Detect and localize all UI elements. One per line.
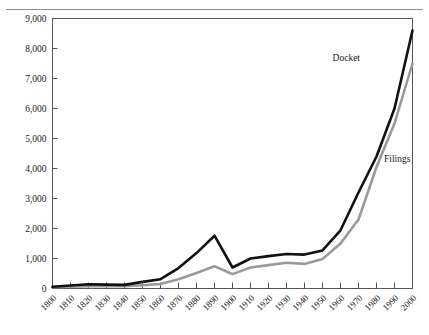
y-tick-label-3000: 3,000 — [25, 194, 47, 204]
y-axis-labels: 9,0008,0007,0006,0005,0004,0003,0002,000… — [25, 14, 47, 294]
x-tick-label-1830: 1830 — [93, 292, 113, 312]
x-tick-label-1940: 1940 — [291, 292, 311, 312]
x-tick-label-1870: 1870 — [165, 292, 185, 312]
x-tick-label-1820: 1820 — [75, 292, 95, 312]
x-tick-label-1980: 1980 — [363, 292, 383, 312]
x-tick-label-1950: 1950 — [309, 292, 329, 312]
chart-figure: 9,0008,0007,0006,0005,0004,0003,0002,000… — [0, 0, 429, 335]
x-tick-label-1900: 1900 — [219, 292, 239, 312]
series-line-docket — [53, 31, 413, 287]
y-tick-label-7000: 7,000 — [25, 74, 47, 84]
y-tick-label-1000: 1,000 — [25, 254, 47, 264]
x-tick-label-1970: 1970 — [345, 292, 365, 312]
x-tick-label-1810: 1810 — [57, 292, 77, 312]
x-tick-label-2000: 2000 — [399, 292, 419, 312]
x-tick-label-1890: 1890 — [201, 292, 221, 312]
y-tick-label-5000: 5,000 — [25, 134, 47, 144]
data-series-lines — [53, 31, 413, 288]
x-tick-label-1920: 1920 — [255, 292, 275, 312]
y-tick-label-6000: 6,000 — [25, 104, 47, 114]
y-tick-label-8000: 8,000 — [25, 44, 47, 54]
x-tick-label-1930: 1930 — [273, 292, 293, 312]
x-tick-label-1960: 1960 — [327, 292, 347, 312]
x-tick-label-1990: 1990 — [381, 292, 401, 312]
x-tick-label-1910: 1910 — [237, 292, 257, 312]
x-tick-label-1800: 1800 — [39, 292, 59, 312]
x-tick-label-1880: 1880 — [183, 292, 203, 312]
series-label-filings: Filings — [384, 154, 411, 164]
y-tick-label-2000: 2,000 — [25, 224, 47, 234]
y-tick-label-9000: 9,000 — [25, 14, 47, 24]
series-label-docket: Docket — [333, 53, 361, 63]
x-tick-label-1860: 1860 — [147, 292, 167, 312]
series-line-filings — [53, 64, 413, 288]
y-tick-label-0: 0 — [42, 284, 47, 294]
x-tick-label-1850: 1850 — [129, 292, 149, 312]
x-tick-label-1840: 1840 — [111, 292, 131, 312]
x-axis-labels: 1800181018201830184018501860187018801890… — [39, 292, 419, 312]
y-tick-label-4000: 4,000 — [25, 164, 47, 174]
y-axis-ticks — [53, 19, 58, 289]
line-chart-plot: 9,0008,0007,0006,0005,0004,0003,0002,000… — [0, 0, 429, 335]
